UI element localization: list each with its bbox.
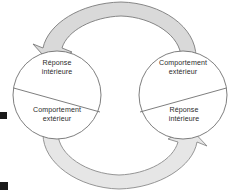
right-circle-bottom-label: Réponse intérieure — [141, 106, 227, 123]
right-circle-bottom-label-line1: Réponse — [141, 106, 227, 115]
left-circle-bottom-label-line1: Comportement — [10, 106, 104, 115]
right-circle-top-label: Comportement extérieur — [136, 59, 230, 76]
edge-mark-lower — [0, 182, 8, 190]
left-circle-bottom-label: Comportement extérieur — [10, 106, 104, 123]
diagram-canvas — [0, 0, 240, 191]
right-circle-bottom-label-line2: intérieure — [141, 115, 227, 124]
left-circle-bottom-label-line2: extérieur — [10, 115, 104, 124]
cycle-diagram-figure: Réponse intérieure Comportement extérieu… — [0, 0, 240, 191]
left-circle-top-label: Réponse intérieure — [14, 59, 100, 76]
edge-mark-upper — [0, 112, 7, 119]
left-circle-top-label-line2: intérieure — [14, 68, 100, 77]
right-circle-top-label-line1: Comportement — [136, 59, 230, 68]
right-circle-top-label-line2: extérieur — [136, 68, 230, 77]
left-circle-top-label-line1: Réponse — [14, 59, 100, 68]
